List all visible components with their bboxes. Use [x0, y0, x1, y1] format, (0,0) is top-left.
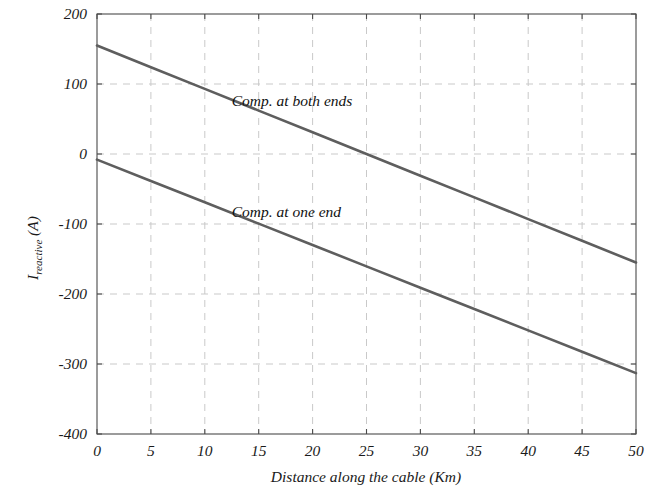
- y-tick-label: -300: [59, 355, 88, 372]
- x-tick-label: 25: [359, 442, 375, 459]
- series-annotations: Comp. at both endsComp. at one end: [232, 92, 353, 220]
- x-tick-label: 45: [574, 442, 590, 459]
- chart-figure: 05101520253035404550 2001000-100-200-300…: [0, 0, 663, 496]
- y-tick-label: -200: [59, 285, 88, 302]
- y-tick-labels: 2001000-100-200-300-400: [59, 5, 88, 442]
- x-tick-label: 0: [93, 442, 101, 459]
- x-tick-label: 40: [520, 442, 536, 459]
- x-tick-label: 50: [628, 442, 644, 459]
- x-tick-label: 10: [197, 442, 213, 459]
- y-tick-label: -100: [59, 215, 88, 232]
- y-axis-title-subscript: reactive: [32, 240, 44, 275]
- y-axis-title-text: Ireactive (A): [24, 216, 44, 281]
- x-tick-labels: 05101520253035404550: [93, 442, 644, 459]
- y-tick-label: 100: [64, 75, 88, 92]
- x-tick-label: 5: [147, 442, 155, 459]
- x-tick-label: 15: [251, 442, 267, 459]
- x-tick-label: 35: [466, 442, 483, 459]
- x-tick-label: 20: [305, 442, 321, 459]
- y-axis-title-unit: (A): [24, 216, 42, 240]
- reactive-current-line-chart: 05101520253035404550 2001000-100-200-300…: [0, 0, 663, 496]
- y-tick-label: -400: [59, 425, 88, 442]
- y-tick-label: 200: [64, 5, 88, 22]
- y-axis-title: Ireactive (A): [24, 216, 44, 281]
- x-axis-title: Distance along the cable (Km): [270, 468, 461, 486]
- y-tick-label: 0: [79, 145, 87, 162]
- series-annotation-0: Comp. at both ends: [232, 92, 353, 109]
- x-tick-label: 30: [412, 442, 429, 459]
- series-annotation-1: Comp. at one end: [232, 203, 342, 220]
